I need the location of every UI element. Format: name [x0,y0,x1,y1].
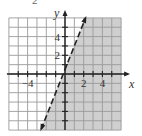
x-axis-arrow-icon [124,72,130,77]
y-axis-arrow-icon [63,10,68,16]
x-tick-label: 4 [100,77,106,89]
y-tick-label: 4 [55,31,61,43]
y-axis-label: y [53,6,60,20]
problem-number: 2 [32,0,38,6]
y-tick-label: 2 [55,49,61,61]
line-arrow-up-icon [81,16,86,23]
x-tick-label: −4 [22,77,34,89]
inequality-graph: 2 −42424 x y [0,0,142,136]
x-axis-label: x [128,77,135,91]
x-tick-label: 2 [81,77,87,89]
